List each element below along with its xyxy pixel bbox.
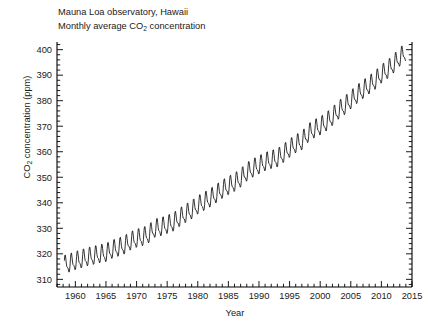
y-axis-tick-label: 310 (36, 275, 52, 285)
chart-title-line-2: Monthly average CO2 concentration (58, 20, 205, 35)
y-axis-tick-label: 360 (36, 147, 52, 157)
x-axis-tick-label: 1970 (126, 291, 147, 301)
chart-title-line-1: Mauna Loa observatory, Hawaii (58, 6, 205, 20)
x-axis-tick-label: 2000 (310, 291, 331, 301)
x-axis-tick-label: 2005 (340, 291, 361, 301)
chart-subtitle-prefix: Monthly average CO (58, 21, 143, 31)
y-axis-tick-label: 320 (36, 249, 52, 259)
y-axis-label: CO2 concentration (ppm) (18, 22, 36, 232)
x-axis-tick-label: 1990 (249, 291, 270, 301)
chart-subtitle-suffix: concentration (147, 21, 205, 31)
x-axis-tick-label: 1985 (218, 291, 239, 301)
x-axis-tick-label: 2010 (371, 291, 392, 301)
y-axis-tick-label: 370 (36, 122, 52, 132)
x-axis-tick-label: 1960 (65, 291, 86, 301)
y-axis-label-subscript: 2 (26, 161, 33, 165)
x-axis-tick-label: 1980 (187, 291, 208, 301)
y-axis-tick-label: 390 (36, 70, 52, 80)
chart-figure: Mauna Loa observatory, Hawaii Monthly av… (0, 0, 430, 331)
y-axis-tick-label: 400 (36, 45, 52, 55)
plot-area: 3103203303403503603703803904001960196519… (0, 0, 430, 331)
y-axis-tick-label: 350 (36, 173, 52, 183)
y-axis-tick-label: 330 (36, 224, 52, 234)
x-axis-tick-label: 2015 (402, 291, 423, 301)
y-axis-tick-label: 340 (36, 198, 52, 208)
x-axis-tick-label: 1995 (279, 291, 300, 301)
x-axis-tick-label: 1965 (96, 291, 117, 301)
y-axis-tick-label: 380 (36, 96, 52, 106)
y-axis-label-suffix: concentration (ppm) (22, 76, 32, 161)
y-axis-label-prefix: CO (22, 165, 32, 179)
x-axis-label: Year (57, 308, 413, 318)
co2-data-line (64, 46, 405, 272)
chart-title: Mauna Loa observatory, Hawaii Monthly av… (58, 6, 205, 35)
x-axis-tick-label: 1975 (157, 291, 178, 301)
